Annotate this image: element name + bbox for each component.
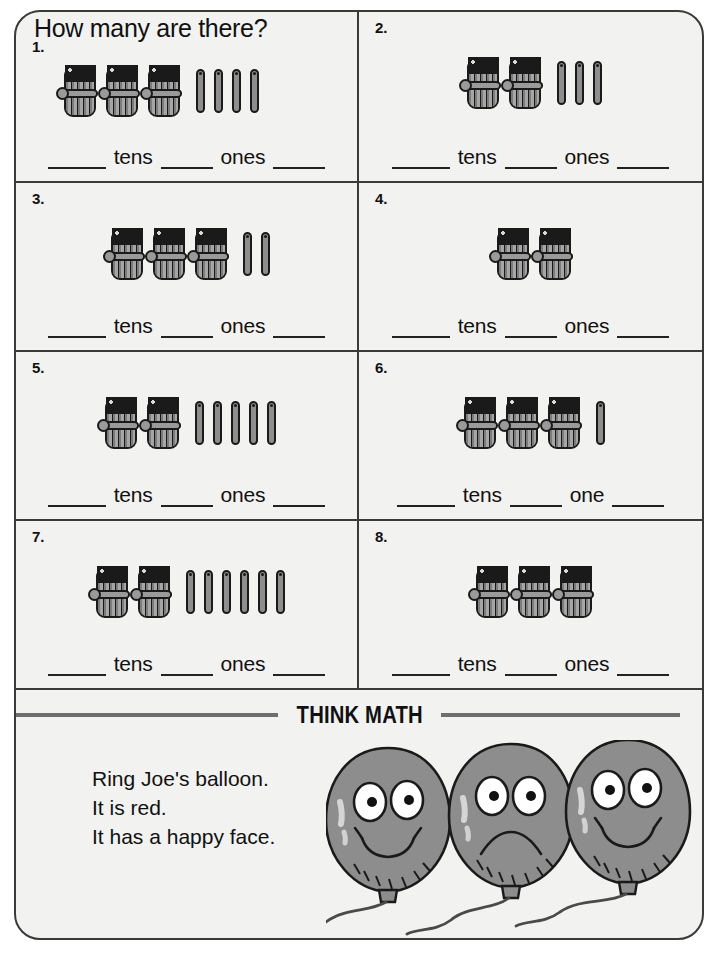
- ten-bundle-icon: [88, 564, 132, 620]
- tens-blank[interactable]: [48, 655, 106, 676]
- bundle-group: [468, 564, 594, 620]
- manipulatives-3: [16, 211, 357, 297]
- ten-bundle-icon: [103, 226, 147, 282]
- total-blank[interactable]: [617, 317, 669, 338]
- problem-cell-4[interactable]: 4. tens ones: [359, 183, 702, 350]
- ten-bundle-icon: [56, 63, 100, 119]
- ones-blank[interactable]: [161, 655, 213, 676]
- prompt-line-1: Ring Joe's balloon.: [92, 764, 275, 793]
- ten-bundle-icon: [540, 395, 584, 451]
- manipulatives-8: [359, 549, 702, 635]
- single-stick-icon: [222, 570, 231, 614]
- divider-left: [16, 713, 278, 717]
- single-stick-icon: [557, 61, 566, 105]
- single-stick-icon: [575, 61, 584, 105]
- problem-number: 4.: [375, 190, 388, 207]
- problem-row: How many are there? 1. tens ones 2.: [16, 12, 702, 181]
- tens-blank[interactable]: [392, 317, 450, 338]
- answer-line-4[interactable]: tens ones: [373, 314, 688, 338]
- total-blank[interactable]: [617, 655, 669, 676]
- ten-bundle-icon: [531, 226, 575, 282]
- single-stick-icon: [267, 401, 276, 445]
- ten-bundle-icon: [501, 55, 545, 111]
- ones-blank[interactable]: [505, 148, 557, 169]
- ones-label: one: [569, 483, 605, 507]
- total-blank[interactable]: [617, 148, 669, 169]
- problem-number: 8.: [375, 528, 388, 545]
- answer-line-2[interactable]: tens ones: [373, 145, 688, 169]
- single-stick-icon: [250, 69, 259, 113]
- ten-bundle-icon: [187, 226, 231, 282]
- answer-line-6[interactable]: tens one: [373, 483, 688, 507]
- answer-line-1[interactable]: tens ones: [30, 145, 343, 169]
- ten-bundle-icon: [98, 63, 142, 119]
- problem-cell-1[interactable]: How many are there? 1. tens ones: [16, 12, 359, 181]
- total-blank[interactable]: [273, 655, 325, 676]
- tens-blank[interactable]: [48, 148, 106, 169]
- total-blank[interactable]: [273, 317, 325, 338]
- ten-bundle-icon: [489, 226, 533, 282]
- think-math-title: THINK MATH: [288, 702, 432, 729]
- prompt-line-3: It has a happy face.: [92, 822, 275, 851]
- total-blank[interactable]: [612, 486, 664, 507]
- total-blank[interactable]: [273, 486, 325, 507]
- ones-blank[interactable]: [505, 655, 557, 676]
- problem-number: 3.: [32, 190, 45, 207]
- think-math-section: THINK MATH Ring Joe's balloon. It is red…: [16, 688, 702, 938]
- stick-group: [195, 401, 276, 445]
- ones-blank[interactable]: [510, 486, 562, 507]
- ones-blank[interactable]: [161, 317, 213, 338]
- single-stick-icon: [258, 570, 267, 614]
- tens-label: tens: [113, 314, 154, 338]
- balloon-illustration: [326, 740, 696, 940]
- balloons-svg: [326, 740, 696, 940]
- ones-blank[interactable]: [505, 317, 557, 338]
- manipulatives-1: [16, 48, 357, 134]
- stick-group: [596, 401, 605, 445]
- problem-cell-3[interactable]: 3. tens ones: [16, 183, 359, 350]
- ten-bundle-icon: [498, 395, 542, 451]
- ones-blank[interactable]: [161, 148, 213, 169]
- think-math-header: THINK MATH: [16, 698, 702, 732]
- single-stick-icon: [261, 232, 270, 276]
- problem-cell-2[interactable]: 2. tens ones: [359, 12, 702, 181]
- problem-cell-8[interactable]: 8. tens ones: [359, 521, 702, 688]
- ten-bundle-icon: [468, 564, 512, 620]
- page-title: How many are there?: [34, 14, 267, 43]
- problem-cell-5[interactable]: 5. tens ones: [16, 352, 359, 519]
- problem-cell-6[interactable]: 6. tens one: [359, 352, 702, 519]
- answer-line-3[interactable]: tens ones: [30, 314, 343, 338]
- think-math-prompt: Ring Joe's balloon. It is red. It has a …: [92, 764, 275, 851]
- ten-bundle-icon: [145, 226, 189, 282]
- single-stick-icon: [196, 69, 205, 113]
- tens-blank[interactable]: [397, 486, 455, 507]
- ten-bundle-icon: [456, 395, 500, 451]
- problem-number: 7.: [32, 528, 45, 545]
- ten-bundle-icon: [459, 55, 503, 111]
- manipulatives-7: [16, 549, 357, 635]
- tens-blank[interactable]: [392, 655, 450, 676]
- manipulatives-4: [359, 211, 702, 297]
- problem-number: 2.: [375, 19, 388, 36]
- problem-row: 3. tens ones 4.: [16, 181, 702, 350]
- single-stick-icon: [596, 401, 605, 445]
- single-stick-icon: [231, 401, 240, 445]
- think-math-body: Ring Joe's balloon. It is red. It has a …: [16, 732, 702, 932]
- bundle-group: [456, 395, 582, 451]
- ones-label: ones: [564, 652, 611, 676]
- answer-line-8[interactable]: tens ones: [373, 652, 688, 676]
- tens-blank[interactable]: [48, 317, 106, 338]
- problem-cell-7[interactable]: 7. tens ones: [16, 521, 359, 688]
- answer-line-7[interactable]: tens ones: [30, 652, 343, 676]
- bundle-group: [459, 55, 543, 111]
- tens-label: tens: [113, 145, 154, 169]
- ones-label: ones: [220, 652, 267, 676]
- tens-blank[interactable]: [48, 486, 106, 507]
- ones-blank[interactable]: [161, 486, 213, 507]
- answer-line-5[interactable]: tens ones: [30, 483, 343, 507]
- total-blank[interactable]: [273, 148, 325, 169]
- tens-blank[interactable]: [392, 148, 450, 169]
- tens-label: tens: [113, 652, 154, 676]
- single-stick-icon: [204, 570, 213, 614]
- single-stick-icon: [186, 570, 195, 614]
